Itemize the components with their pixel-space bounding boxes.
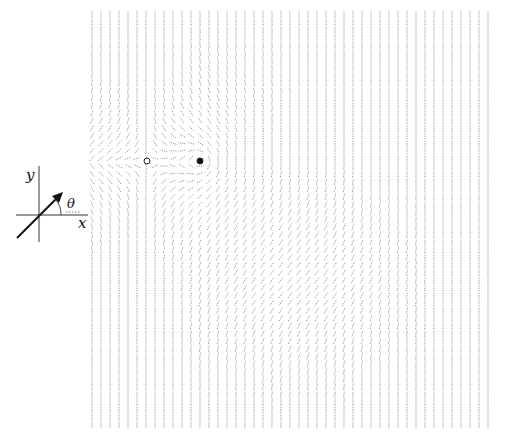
y-axis-label: y <box>25 166 35 184</box>
direction-arrow <box>17 197 58 238</box>
theta-label: θ <box>67 196 75 211</box>
x-axis-label: x <box>78 214 87 232</box>
field-segments <box>90 11 489 428</box>
positive-defect-marker <box>197 158 203 164</box>
negative-defect-marker <box>144 158 150 164</box>
axes-inset: y x θ <box>0 150 100 250</box>
